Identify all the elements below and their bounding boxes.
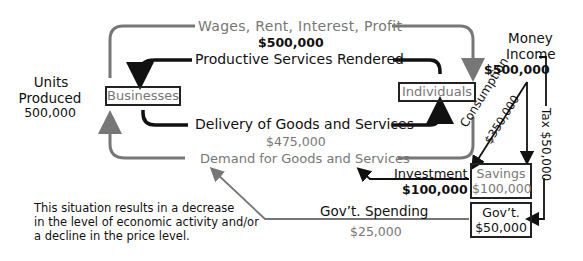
wages-label: Wages, Rent, Interest, Profit	[198, 19, 402, 33]
note-line3: a decline in the price level.	[34, 231, 190, 243]
demand-label: Demand for Goods and Services	[200, 152, 410, 165]
units-line3: 500,000	[12, 107, 88, 120]
tax-label: Tax $50,000	[540, 108, 552, 181]
govt-amount: $50,000	[472, 220, 530, 235]
delivery-amount: $475,000	[266, 136, 326, 149]
wages-amount: $500,000	[258, 37, 324, 50]
money-income-line2: Income	[506, 48, 556, 62]
delivery-label: Delivery of Goods and Services	[195, 117, 414, 131]
investment-label: Investment	[394, 167, 468, 180]
units-line2: Produced	[10, 92, 90, 106]
savings-label: Savings	[472, 166, 530, 181]
govt-node: Gov’t. $50,000	[470, 202, 532, 238]
money-income-line1: Money	[508, 32, 553, 46]
govt-spending-label: Gov’t. Spending	[320, 205, 428, 219]
businesses-node: Businesses	[105, 86, 181, 106]
note-line2: in the level of economic activity and/or	[34, 217, 259, 229]
productive-services-label: Productive Services Rendered	[195, 52, 404, 66]
businesses-label: Businesses	[107, 88, 179, 104]
investment-amount: $100,000	[402, 184, 468, 197]
govt-spending-amount: $25,000	[350, 226, 402, 239]
individuals-label: Individuals	[400, 84, 474, 100]
individuals-node: Individuals	[398, 82, 476, 102]
note-line1: This situation results in a decrease	[34, 203, 234, 215]
govt-label: Gov’t.	[472, 205, 530, 220]
savings-node: Savings $100,000	[470, 163, 532, 199]
savings-amount: $100,000	[472, 181, 530, 196]
units-line1: Units	[14, 76, 88, 90]
